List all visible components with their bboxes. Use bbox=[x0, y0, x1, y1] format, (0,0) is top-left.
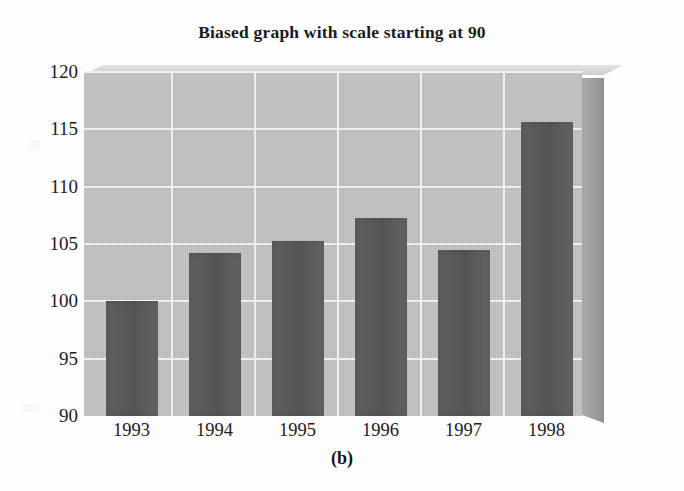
y-axis-tick-label: 110 bbox=[16, 176, 78, 198]
gridline-vertical bbox=[420, 72, 422, 416]
gridline-vertical bbox=[254, 72, 256, 416]
bar-1998 bbox=[521, 122, 573, 416]
bar-1995 bbox=[272, 241, 324, 416]
bar-1994 bbox=[189, 253, 241, 416]
gridline-horizontal bbox=[84, 71, 582, 73]
figure-caption: (b) bbox=[0, 448, 684, 469]
y-axis-tick-label: 95 bbox=[16, 348, 78, 370]
bar-1993 bbox=[106, 301, 158, 416]
gridline-horizontal bbox=[84, 300, 582, 302]
x-axis-tick-label: 1996 bbox=[362, 420, 399, 441]
bar-1996 bbox=[355, 218, 407, 416]
y-axis-tick-label: 105 bbox=[16, 233, 78, 255]
gridline-horizontal bbox=[84, 243, 582, 245]
gridline-horizontal bbox=[84, 186, 582, 188]
figure-container: Biased graph with scale starting at 90 9… bbox=[0, 0, 684, 491]
gridline-vertical bbox=[337, 72, 339, 416]
x-axis-tick-label: 1995 bbox=[279, 420, 316, 441]
plot-area bbox=[84, 72, 582, 416]
gridline-vertical bbox=[503, 72, 505, 416]
y-axis-tick-label: 100 bbox=[16, 290, 78, 312]
y-axis-tick-label: 115 bbox=[16, 118, 78, 140]
x-axis-tick-label: 1994 bbox=[196, 420, 233, 441]
bar-1997 bbox=[438, 250, 490, 416]
gridline-vertical bbox=[171, 72, 173, 416]
y-axis-tick-labels: 9095100105110115120 bbox=[8, 72, 78, 416]
chart-3d-right-face bbox=[582, 78, 604, 423]
gridline-horizontal bbox=[84, 358, 582, 360]
gridline-horizontal bbox=[84, 128, 582, 130]
x-axis-tick-label: 1998 bbox=[528, 420, 565, 441]
x-axis-tick-labels: 199319941995199619971998 bbox=[0, 420, 684, 448]
x-axis-tick-label: 1997 bbox=[445, 420, 482, 441]
x-axis-tick-label: 1993 bbox=[113, 420, 150, 441]
y-axis-tick-label: 120 bbox=[16, 61, 78, 83]
chart-title: Biased graph with scale starting at 90 bbox=[0, 22, 684, 43]
